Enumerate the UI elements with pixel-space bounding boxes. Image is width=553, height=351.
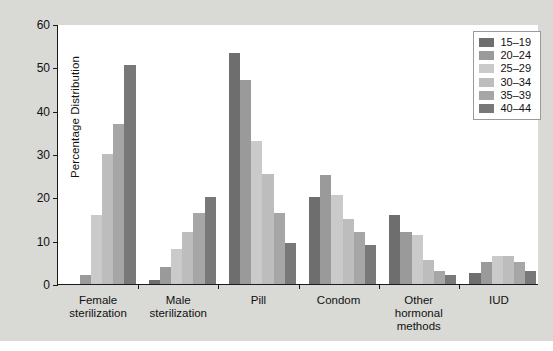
bar (331, 195, 342, 284)
bar (124, 65, 135, 284)
bar-group (389, 25, 456, 284)
legend-item: 15–19 (479, 36, 531, 49)
x-axis-label: IUD (459, 294, 539, 307)
bar (365, 245, 376, 284)
legend-label: 30–34 (500, 77, 531, 88)
bar-group (229, 25, 296, 284)
y-tick-mark-10 (53, 242, 58, 243)
bar (481, 262, 492, 284)
legend-label: 25–29 (500, 63, 531, 74)
legend-item: 30–34 (479, 76, 531, 89)
bar (193, 213, 204, 285)
x-tick-mark (218, 284, 219, 289)
legend-swatch-icon (479, 64, 494, 73)
legend-label: 40–44 (500, 103, 531, 114)
bar (240, 80, 251, 284)
x-axis-label: Male sterilization (138, 294, 218, 320)
y-tick-label-20: 20 (16, 192, 50, 204)
bar (149, 280, 160, 284)
bar (503, 256, 514, 284)
chart-figure: Percentage Distribution 0102030405060 Fe… (0, 0, 553, 351)
legend-swatch-icon (479, 78, 494, 87)
bar (229, 53, 240, 284)
y-tick-mark-0 (53, 285, 58, 286)
bar (102, 154, 113, 284)
legend-label: 35–39 (500, 90, 531, 101)
legend-item: 40–44 (479, 102, 531, 115)
x-tick-mark (379, 284, 380, 289)
y-tick-label-30: 30 (16, 149, 50, 161)
bar (274, 213, 285, 285)
x-axis-label: Female sterilization (58, 294, 138, 320)
y-tick-mark-60 (53, 25, 58, 26)
y-tick-label-40: 40 (16, 106, 50, 118)
plot-area: Percentage Distribution 0102030405060 Fe… (57, 25, 538, 285)
bar-group (149, 25, 216, 284)
bar-group (309, 25, 376, 284)
bar (389, 215, 400, 284)
y-tick-mark-20 (53, 198, 58, 199)
y-tick-label-60: 60 (16, 19, 50, 31)
bar (514, 262, 525, 284)
legend-item: 35–39 (479, 89, 531, 102)
legend-item: 25–29 (479, 62, 531, 75)
legend-swatch-icon (479, 38, 494, 47)
bar (160, 267, 171, 284)
bar (423, 260, 434, 284)
bar (412, 235, 423, 284)
legend-swatch-icon (479, 104, 494, 113)
x-axis-label: Other hormonal methods (379, 294, 459, 333)
bar (320, 175, 331, 284)
bar (285, 243, 296, 284)
bar (113, 124, 124, 284)
bar (80, 275, 91, 284)
y-tick-mark-30 (53, 155, 58, 156)
bar (343, 219, 354, 284)
bar (400, 232, 411, 284)
x-axis-label: Pill (218, 294, 298, 307)
bar (171, 249, 182, 284)
bar (469, 273, 480, 284)
legend-swatch-icon (479, 91, 494, 100)
bar (525, 271, 536, 284)
bar (205, 197, 216, 284)
y-tick-mark-40 (53, 112, 58, 113)
bar (91, 215, 102, 284)
caption-strip (0, 341, 553, 351)
bar (251, 141, 262, 284)
legend-label: 20–24 (500, 50, 531, 61)
x-axis-label: Condom (299, 294, 379, 307)
legend: 15–1920–2425–2930–3435–3940–44 (473, 31, 541, 120)
x-tick-mark (138, 284, 139, 289)
legend-label: 15–19 (500, 37, 531, 48)
bar (262, 174, 273, 285)
y-tick-label-0: 0 (16, 279, 50, 291)
x-tick-mark (299, 284, 300, 289)
legend-item: 20–24 (479, 49, 531, 62)
y-tick-mark-50 (53, 68, 58, 69)
bar (354, 232, 365, 284)
bar (309, 197, 320, 284)
bar (182, 232, 193, 284)
bar (434, 271, 445, 284)
y-tick-label-10: 10 (16, 236, 50, 248)
legend-swatch-icon (479, 51, 494, 60)
bar-group (68, 25, 135, 284)
x-tick-mark (459, 284, 460, 289)
y-tick-label-50: 50 (16, 62, 50, 74)
bar (492, 256, 503, 284)
bar (445, 275, 456, 284)
